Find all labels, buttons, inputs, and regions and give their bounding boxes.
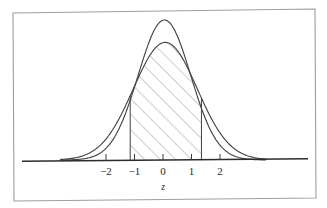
tick-label-1: −1 bbox=[129, 165, 141, 177]
figure-canvas: −2−1012 z bbox=[0, 0, 327, 208]
tick-label-4: 2 bbox=[217, 165, 223, 177]
tick-label-2: 0 bbox=[160, 165, 166, 177]
normal-distribution-figure: −2−1012 z bbox=[0, 0, 327, 208]
x-axis-label: z bbox=[160, 182, 165, 192]
axis-tick-labels: −2−1012 bbox=[100, 165, 223, 177]
tick-label-3: 1 bbox=[189, 165, 195, 177]
shaded-region bbox=[130, 42, 201, 160]
tick-label-0: −2 bbox=[100, 165, 112, 177]
